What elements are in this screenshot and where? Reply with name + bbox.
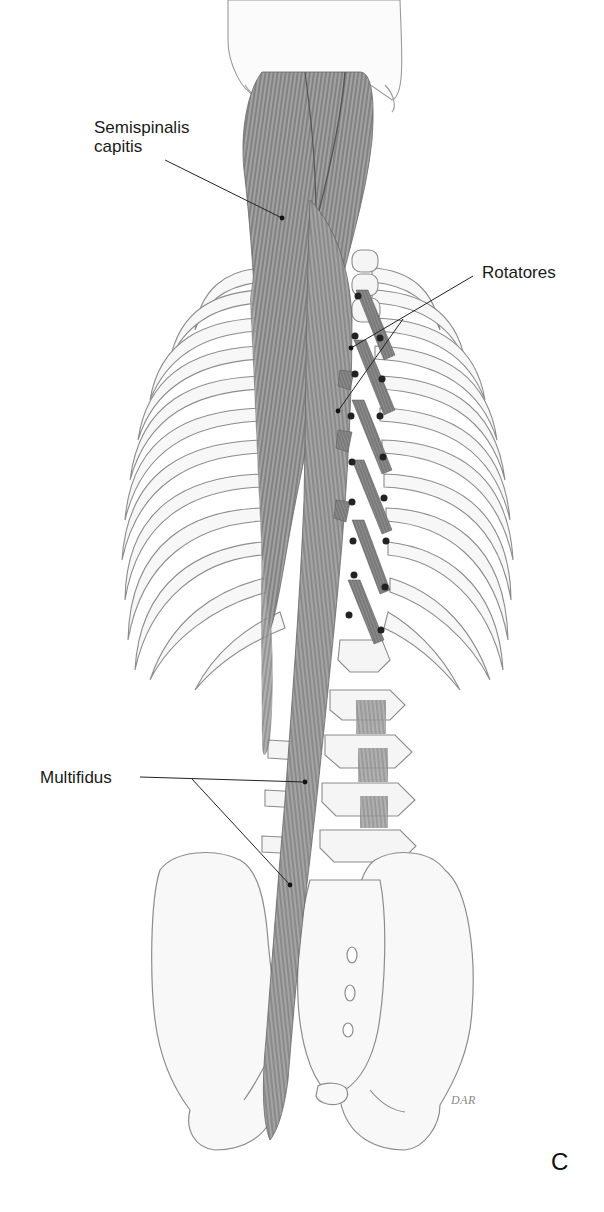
label-semispinalis-line2: capitis bbox=[94, 137, 189, 156]
label-semispinalis-capitis: Semispinalis capitis bbox=[94, 118, 189, 156]
panel-letter: C bbox=[551, 1148, 568, 1176]
artist-signature: DAR bbox=[451, 1093, 476, 1108]
label-multifidus: Multifidus bbox=[40, 768, 112, 787]
lumbar-intertransversarii bbox=[356, 700, 388, 828]
label-rotatores: Rotatores bbox=[482, 263, 556, 282]
anatomy-illustration bbox=[0, 0, 604, 1212]
pelvis bbox=[152, 853, 473, 1150]
label-semispinalis-line1: Semispinalis bbox=[94, 118, 189, 137]
